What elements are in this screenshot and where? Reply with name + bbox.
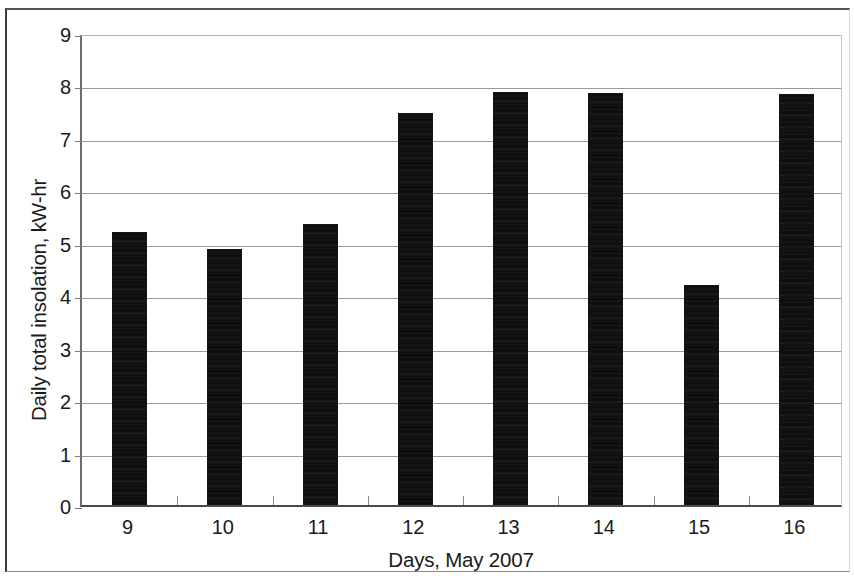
bar [684,285,719,505]
y-axis-tick-label: 4 [37,287,71,307]
bar [303,224,338,505]
bar [398,113,433,505]
gridline [82,193,841,194]
x-axis-tick-mark [368,496,369,505]
y-axis-tick-mark [75,403,82,404]
bar [588,93,623,505]
bar [112,232,147,505]
y-axis-tick-label: 6 [37,182,71,202]
x-axis-title: Days, May 2007 [80,548,842,572]
bar [207,249,242,505]
y-axis-tick-mark [75,88,82,89]
y-axis-tick-label: 8 [37,77,71,97]
y-axis-tick-label: 5 [37,235,71,255]
y-axis-tick-label: 1 [37,445,71,465]
x-axis-tick-label: 11 [271,515,366,539]
plot-area [80,35,842,507]
figure-frame: Daily total insolation, kW-hr 0123456789… [5,8,850,572]
y-axis-tick-label: 2 [37,392,71,412]
x-axis-tick-mark [463,496,464,505]
x-axis-tick-label: 9 [80,515,175,539]
gridline [82,351,841,352]
y-axis-tick-mark [75,36,82,37]
gridline [82,298,841,299]
y-axis-tick-labels: 0123456789 [37,35,71,507]
y-axis-tick-mark [75,298,82,299]
gridline [82,88,841,89]
x-axis-tick-labels: 910111213141516 [80,515,842,543]
gridline [82,403,841,404]
x-axis-tick-label: 13 [461,515,556,539]
y-axis-tick-mark [75,141,82,142]
x-axis-tick-label: 12 [366,515,461,539]
y-axis-tick-label: 7 [37,130,71,150]
x-axis-tick-mark [177,496,178,505]
y-axis-tick-mark [75,508,82,509]
y-axis-tick-mark [75,456,82,457]
x-axis-tick-mark [749,496,750,505]
y-axis-tick-mark [75,193,82,194]
bar [493,92,528,505]
gridline [82,456,841,457]
y-axis-tick-mark [75,246,82,247]
x-axis-tick-label: 15 [652,515,747,539]
gridline [82,246,841,247]
y-axis-tick-label: 0 [37,497,71,517]
y-axis-tick-label: 3 [37,340,71,360]
x-axis-tick-label: 10 [175,515,270,539]
x-axis-tick-mark [558,496,559,505]
gridline [82,141,841,142]
y-axis-tick-label: 9 [37,25,71,45]
bar [779,94,814,505]
x-axis-tick-label: 14 [556,515,651,539]
x-axis-tick-label: 16 [747,515,842,539]
y-axis-tick-mark [75,351,82,352]
x-axis-tick-mark [654,496,655,505]
x-axis-tick-mark [273,496,274,505]
